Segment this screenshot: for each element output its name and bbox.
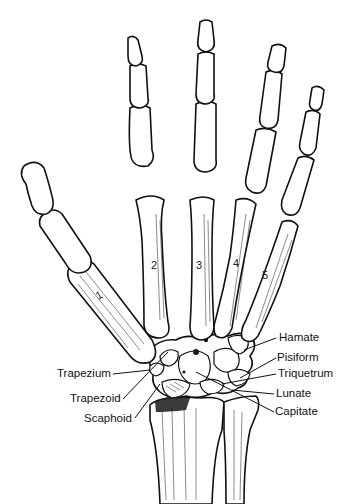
distal-phalanx-2 xyxy=(128,36,142,66)
distal-phalanx-4 xyxy=(268,44,286,72)
trapezium-leader xyxy=(113,370,150,374)
metacarpal-number-5: 5 xyxy=(262,270,268,281)
hand-skeleton-illustration xyxy=(0,0,352,504)
thumb-bones xyxy=(21,162,155,363)
middle-phalanx-3 xyxy=(196,52,214,104)
metacarpal-number-2: 2 xyxy=(151,260,157,271)
proximal-phalanx-5 xyxy=(282,156,315,215)
hand-bones-diagram: 1 2 3 4 5 Trapezium Trapezoid Scaphoid H… xyxy=(0,0,352,504)
label-triquetrum: Triquetrum xyxy=(278,368,333,380)
middle-phalanx-5 xyxy=(300,110,321,155)
distal-phalanx-1 xyxy=(21,162,53,214)
metacarpal-number-3: 3 xyxy=(196,260,202,271)
metacarpal-5 xyxy=(242,221,299,342)
ulna-bone xyxy=(224,396,259,504)
metacarpal-1 xyxy=(68,259,156,363)
proximal-phalanx-1 xyxy=(40,210,92,273)
label-scaphoid: Scaphoid xyxy=(84,413,132,425)
middle-phalanx-2 xyxy=(130,64,148,108)
metacarpal-number-4: 4 xyxy=(233,258,239,269)
proximal-phalanx-2 xyxy=(129,105,153,166)
proximal-phalanx-3 xyxy=(194,101,216,172)
proximal-phalanx-4 xyxy=(246,128,276,193)
middle-finger-bones xyxy=(190,20,216,340)
label-hamate: Hamate xyxy=(279,332,319,344)
distal-phalanx-3 xyxy=(198,20,215,52)
index-finger-bones xyxy=(128,36,169,338)
distal-phalanx-5 xyxy=(310,86,325,110)
label-trapezium: Trapezium xyxy=(57,368,111,380)
label-pisiform: Pisiform xyxy=(277,352,319,364)
label-lunate: Lunate xyxy=(276,388,311,400)
label-capitate: Capitate xyxy=(275,406,318,418)
label-trapezoid: Trapezoid xyxy=(70,393,121,405)
radius-bone xyxy=(150,397,224,504)
carpal-bones xyxy=(149,333,255,398)
middle-phalanx-4 xyxy=(260,70,282,128)
